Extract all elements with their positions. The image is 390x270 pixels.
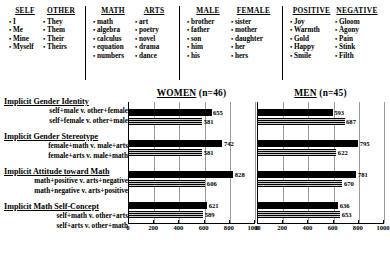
word-column-header: SELF <box>8 6 42 15</box>
word-item: Them <box>42 26 80 35</box>
tick-label: 400 <box>302 224 312 231</box>
word-item: his <box>186 52 230 61</box>
bar <box>129 149 202 156</box>
word-column-header: FEMALE <box>230 6 277 15</box>
condition-label: self+male v. other+female <box>4 107 128 117</box>
word-item: They <box>42 18 80 27</box>
word-item: Mine <box>8 35 42 44</box>
word-item: novel <box>134 35 174 44</box>
word-item: sister <box>230 18 277 27</box>
word-item: calculus <box>92 35 134 44</box>
bar-value-label: 781 <box>358 171 368 178</box>
word-item: mother <box>230 26 277 35</box>
word-item: Me <box>8 26 42 35</box>
word-item: Myself <box>8 43 42 52</box>
bar <box>129 118 202 125</box>
gridline <box>384 102 385 223</box>
word-item: Theirs <box>42 43 80 52</box>
tick-label: 600 <box>199 224 209 231</box>
stimulus-word-table: SELFIMeMineMyself-OTHERTheyThemTheirThei… <box>8 6 382 80</box>
category-title: Implicit Gender Stereotype <box>4 131 128 142</box>
category-block-0: Implicit Gender Identityself+male v. oth… <box>4 96 128 126</box>
tick-label: 0 <box>126 224 129 231</box>
category-block-1: Implicit Gender Stereotypefemale+math v.… <box>4 131 128 161</box>
bar <box>258 118 345 125</box>
condition-label: female+math v. male+arts <box>4 142 128 152</box>
bar-value-label: 589 <box>205 211 215 218</box>
bar <box>258 202 338 209</box>
bar <box>258 140 358 147</box>
word-column-header: POSITIVE <box>289 6 334 15</box>
word-column-header: ARTS <box>134 6 174 15</box>
word-item: Joy <box>289 18 334 27</box>
tick-label: 400 <box>173 224 183 231</box>
word-column-header: OTHER <box>42 6 80 15</box>
x-axis-ticks: 02004006008001000 <box>257 224 384 236</box>
bar <box>129 109 212 116</box>
panel-title: WOMEN (n=46) <box>128 88 255 98</box>
tick-label: 1000 <box>376 224 389 231</box>
condition-label: self+female v. other+male <box>4 117 128 127</box>
tick-label: 0 <box>255 224 258 231</box>
word-item: Pain <box>334 35 380 44</box>
word-group-2: MALEbrotherfathersonhimhisFEMALEsistermo… <box>179 6 277 80</box>
tick-label: 600 <box>328 224 338 231</box>
bar-value-label: 687 <box>346 118 356 125</box>
bar-value-label: 606 <box>207 180 217 187</box>
bar-value-label: 653 <box>342 211 352 218</box>
x-axis-ticks: 02004006008001000 <box>128 224 255 236</box>
word-item: brother <box>186 18 230 27</box>
word-group-3: POSITIVEJoyWarmthGoldHappySmileNEGATIVEG… <box>282 6 380 80</box>
category-block-2: Implicit Attitude toward Mathmath+positi… <box>4 166 128 196</box>
word-item: Their <box>42 35 80 44</box>
gridline <box>230 102 231 223</box>
condition-label: self+arts v. other+math <box>4 222 128 232</box>
bar-value-label: 581 <box>204 149 214 156</box>
word-item: daughter <box>230 35 277 44</box>
condition-label: female+arts v. male+math <box>4 152 128 162</box>
word-column-arts: ARTSartpoetrynoveldramadance <box>134 6 174 80</box>
bar-value-label: 621 <box>209 202 219 209</box>
bar <box>129 180 205 187</box>
plot-area: 655581742581828606621589 <box>128 102 255 224</box>
gridline <box>359 102 360 223</box>
bar-value-label: 795 <box>360 140 370 147</box>
word-column-negative: NEGATIVEGloomAgonyPainStinkFilth <box>334 6 380 80</box>
bar <box>258 211 340 218</box>
word-item: her <box>230 43 277 52</box>
word-item: Happy <box>289 43 334 52</box>
bar-value-label: 655 <box>213 109 223 116</box>
word-item: him <box>186 43 230 52</box>
word-item: son <box>186 35 230 44</box>
bar <box>129 211 203 218</box>
bar-value-label: 581 <box>204 118 214 125</box>
word-item: algebra <box>92 26 134 35</box>
condition-label: math+negative v. arts+positive <box>4 187 128 197</box>
word-column-female: FEMALEsistermotherdaughterherhers <box>230 6 277 80</box>
word-item: math <box>92 18 134 27</box>
word-item: drama <box>134 43 174 52</box>
bar-value-label: 670 <box>344 180 354 187</box>
tick-label: 200 <box>277 224 287 231</box>
tick-label: 800 <box>224 224 234 231</box>
word-item: Stink <box>334 43 380 52</box>
word-item: dance <box>134 52 174 61</box>
word-item: numbers <box>92 52 134 61</box>
bar <box>129 202 207 209</box>
bar <box>258 109 333 116</box>
category-block-3: Implicit Math Self-Conceptself+math v. o… <box>4 201 128 231</box>
plot-area: 593687795622781670636653 <box>257 102 384 224</box>
condition-label: self+math v. other+arts <box>4 212 128 222</box>
word-column-male: MALEbrotherfathersonhimhis <box>186 6 230 80</box>
word-column-positive: POSITIVEJoyWarmthGoldHappySmile <box>289 6 334 80</box>
word-item: equation <box>92 43 134 52</box>
word-column-header: NEGATIVE <box>334 6 380 15</box>
tick-label: 200 <box>148 224 158 231</box>
word-item: Filth <box>334 52 380 61</box>
condition-label: math+positive v. arts+negative <box>4 177 128 187</box>
word-item: hers <box>230 52 277 61</box>
word-column-header: MATH <box>92 6 134 15</box>
word-item: father <box>186 26 230 35</box>
bar-value-label: 636 <box>340 202 350 209</box>
